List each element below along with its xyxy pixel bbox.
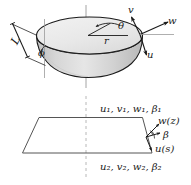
cone-angle-label: ϕ (38, 48, 45, 58)
radius-label: r (104, 36, 109, 46)
velocity-w-label: w (168, 16, 177, 26)
azimuth-label: θ (118, 21, 124, 31)
slant-leader-bottom (28, 58, 46, 66)
velocity-w-arrow (140, 22, 168, 35)
figure-container: L ϕ r θ v w u u₁, v₁, w₁, β₁ w(z) β u(s)… (0, 0, 191, 185)
top-boundary-label: u₁, v₁, w₁, β₁ (100, 104, 162, 114)
velocity-v-label: v (128, 5, 134, 15)
meridional-section-trapezoid (23, 118, 153, 154)
u-of-s-label: u(s) (155, 144, 174, 154)
bottom-boundary-label: u₂, v₂, w₂, β₂ (100, 162, 162, 172)
velocity-u-label: u (147, 50, 153, 60)
beta-label: β (163, 130, 169, 140)
figure-drawing (0, 0, 191, 185)
w-of-z-label: w(z) (158, 116, 180, 126)
